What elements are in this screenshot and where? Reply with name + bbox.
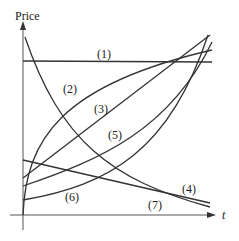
curve-1-label: (1) [97,47,111,61]
curve-3 [23,35,210,178]
y-axis-label: Price [15,9,40,23]
curve-6 [23,35,208,200]
curve-4-label: (4) [182,182,196,196]
curve-1 [23,61,212,62]
x-axis-arrow-icon [207,212,216,218]
curve-2-label: (2) [63,82,77,96]
curve-6-label: (6) [65,190,79,204]
price-chart: Price t (1) (2) (3) (5) (4) (6) (7) [0,0,239,241]
curve-5-label: (5) [108,128,122,142]
x-axis-label: t [222,208,226,222]
curve-7-label: (7) [148,198,162,212]
curve-5 [23,42,212,186]
curve-3-label: (3) [94,102,108,116]
